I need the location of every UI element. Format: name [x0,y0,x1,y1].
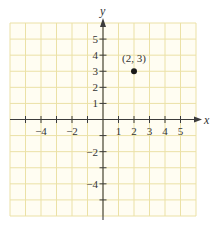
x-tick-label: −4 [35,125,47,137]
x-axis-arrow-icon [194,117,202,123]
x-tick-label: 4 [162,125,168,137]
coordinate-plane: −4−21234554321−2−4 x y (2, 3) [0,0,217,225]
x-tick-label: −2 [66,125,78,137]
y-tick-label: −4 [86,178,98,190]
y-tick-label: 3 [93,65,99,77]
x-tick-label: 2 [131,125,137,137]
y-tick-label: 2 [93,81,99,93]
x-tick-label: 1 [116,125,122,137]
x-tick-label: 3 [147,125,153,137]
data-point-label: (2, 3) [122,52,146,65]
x-tick-label: 5 [178,125,184,137]
y-tick-label: 5 [93,33,99,45]
y-tick-label: 1 [93,97,99,109]
y-tick-label: −2 [86,146,98,158]
data-point [131,68,137,74]
y-tick-label: 4 [93,49,99,61]
y-axis-label: y [99,4,106,18]
x-axis-label: x [203,113,210,127]
